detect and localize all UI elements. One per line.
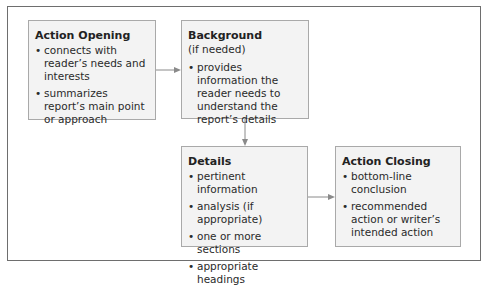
box-title: Background	[188, 29, 302, 43]
bullet-item: provides information the reader needs to…	[188, 61, 302, 126]
box-details: Details pertinent information analysis (…	[181, 146, 308, 247]
arrow-right-icon	[308, 192, 336, 202]
box-action-closing: Action Closing bottom-line conclusion re…	[335, 146, 461, 247]
bullet-item: analysis (if appropriate)	[188, 200, 301, 226]
box-subtitle: (if needed)	[188, 43, 302, 56]
bullet-list: bottom-line conclusion recommended actio…	[342, 170, 454, 239]
arrow-down-icon	[240, 119, 250, 147]
box-action-opening: Action Opening connects with reader’s ne…	[28, 20, 156, 120]
bullet-item: pertinent information	[188, 170, 301, 196]
bullet-item: appropriate headings	[188, 260, 301, 286]
bullet-item: recommended action or writer’s intended …	[342, 200, 454, 239]
bullet-item: summarizes report’s main point or approa…	[35, 87, 149, 126]
bullet-list: connects with reader’s needs and interes…	[35, 44, 149, 126]
box-title: Action Closing	[342, 155, 454, 169]
box-title: Action Opening	[35, 29, 149, 43]
box-background: Background (if needed) provides informat…	[181, 20, 309, 119]
arrow-right-icon	[156, 65, 182, 75]
bullet-item: connects with reader’s needs and interes…	[35, 44, 149, 83]
bullet-item: bottom-line conclusion	[342, 170, 454, 196]
bullet-item: one or more sections	[188, 230, 301, 256]
box-title: Details	[188, 155, 301, 169]
bullet-list: pertinent information analysis (if appro…	[188, 170, 301, 286]
bullet-list: provides information the reader needs to…	[188, 61, 302, 126]
